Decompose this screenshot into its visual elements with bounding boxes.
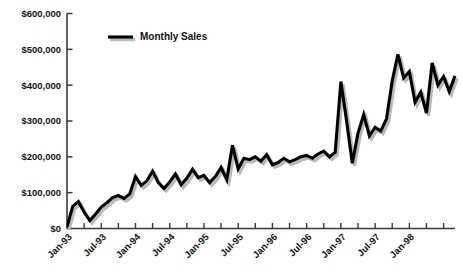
x-axis-tick-label: Jan-97 xyxy=(319,231,348,260)
y-axis-tick-label: $0 xyxy=(50,223,61,234)
x-axis-tick-label: Jan-98 xyxy=(387,231,416,260)
y-axis-tick-label: $600,000 xyxy=(21,8,61,19)
x-axis-tick-marks xyxy=(67,223,444,229)
y-axis-tick-label: $400,000 xyxy=(21,80,61,91)
monthly-sales-chart: $0$100,000$200,000$300,000$400,000$500,0… xyxy=(0,0,463,278)
legend: Monthly Sales xyxy=(108,31,208,42)
x-axis-tick-label: Jan-95 xyxy=(182,231,212,261)
x-axis-tick-label: Jan-94 xyxy=(113,231,143,261)
y-axis-tick-label: $500,000 xyxy=(21,44,61,55)
y-axis-tick-labels: $0$100,000$200,000$300,000$400,000$500,0… xyxy=(21,8,61,234)
x-axis-tick-label: Jan-93 xyxy=(45,231,74,260)
y-axis-tick-label: $300,000 xyxy=(21,115,61,126)
y-axis-tick-label: $200,000 xyxy=(21,151,61,162)
y-axis-tick-marks xyxy=(67,14,73,229)
x-axis-tick-label: Jul-93 xyxy=(81,231,108,258)
series-line-shadow xyxy=(69,57,457,229)
x-axis-tick-label: Jul-96 xyxy=(286,231,313,258)
x-axis-tick-label: Jul-97 xyxy=(355,231,382,258)
x-axis-tick-labels: Jan-93Jul-93Jan-94Jul-94Jan-95Jul-95Jan-… xyxy=(45,231,416,261)
x-axis-tick-label: Jul-95 xyxy=(218,231,246,259)
legend-label-monthly-sales: Monthly Sales xyxy=(140,31,208,42)
chart-canvas: $0$100,000$200,000$300,000$400,000$500,0… xyxy=(0,0,463,278)
x-axis-tick-label: Jul-94 xyxy=(149,231,177,259)
x-axis-tick-label: Jan-96 xyxy=(250,231,279,260)
y-axis-tick-label: $100,000 xyxy=(21,187,61,198)
